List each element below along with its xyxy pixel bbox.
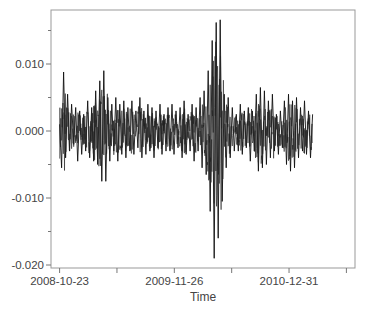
x-tick-label: 2010-12-31 bbox=[260, 275, 319, 287]
y-axis: 0.0100.000-0.010-0.020 bbox=[11, 31, 51, 272]
y-tick-label: -0.010 bbox=[11, 192, 44, 204]
time-series-chart: 0.0100.000-0.010-0.020 2008-10-232009-11… bbox=[0, 0, 365, 310]
x-axis-title: Time bbox=[190, 290, 217, 304]
x-tick-label: 2008-10-23 bbox=[30, 275, 89, 287]
y-tick-label: 0.010 bbox=[15, 58, 44, 70]
y-tick-label: 0.000 bbox=[15, 125, 44, 137]
y-tick-label: -0.020 bbox=[11, 259, 44, 271]
x-axis: 2008-10-232009-11-262010-12-31 bbox=[30, 268, 346, 287]
x-tick-label: 2009-11-26 bbox=[145, 275, 203, 287]
